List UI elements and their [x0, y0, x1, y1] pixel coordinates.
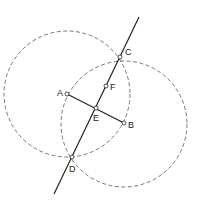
label-e: E — [93, 113, 99, 123]
geometry-diagram: ABCDEF — [0, 0, 199, 209]
label-f: F — [110, 82, 116, 92]
label-b: B — [128, 120, 134, 130]
point-e — [94, 106, 98, 110]
point-d — [70, 155, 74, 159]
label-c: C — [125, 47, 132, 57]
point-b — [122, 121, 126, 125]
point-f — [104, 84, 108, 88]
label-d: D — [69, 164, 76, 174]
point-a — [65, 92, 69, 96]
label-a: A — [57, 88, 63, 98]
bisector-line — [54, 17, 139, 194]
point-c — [118, 55, 122, 59]
